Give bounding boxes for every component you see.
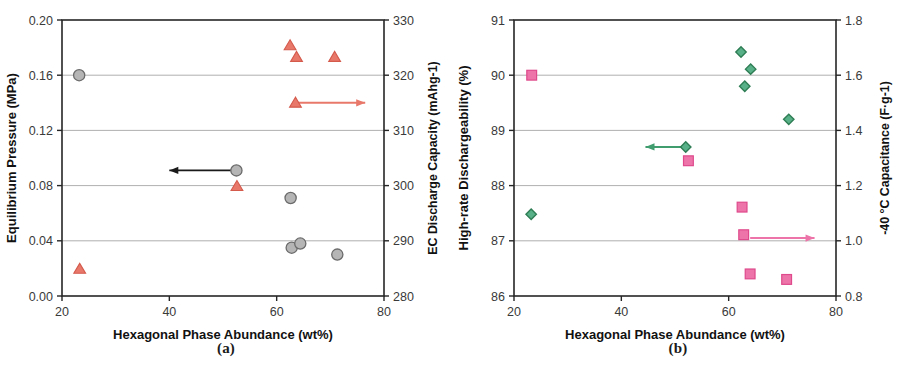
data-point-diamond <box>784 114 794 124</box>
y-left-tick-label: 0.00 <box>29 290 53 304</box>
data-point-triangle <box>284 40 296 50</box>
data-point-square <box>745 269 755 279</box>
y-right-tick-label: 320 <box>393 69 414 83</box>
arrow-head-right-icon <box>356 99 365 106</box>
y-left-axis-title: High-rate Dischargeability (%) <box>456 66 471 251</box>
data-point-diamond <box>740 81 750 91</box>
data-point-circle <box>285 192 296 203</box>
y-left-tick-label: 0.04 <box>29 234 53 248</box>
series-1-markers <box>527 70 792 284</box>
panel-a-plot: 0.000.040.080.120.160.202802903003103203… <box>0 0 452 376</box>
data-point-diamond <box>526 209 536 219</box>
y-left-tick-label: 0.20 <box>29 14 53 28</box>
y-left-tick-label: 86 <box>491 290 505 304</box>
y-right-tick-label: 1.8 <box>845 14 862 28</box>
data-point-triangle <box>74 263 86 273</box>
data-point-square <box>782 275 792 285</box>
data-point-circle <box>295 238 306 249</box>
x-tick-label: 20 <box>55 305 69 319</box>
y-right-axis: 0.81.01.21.41.61.8 <box>836 14 862 304</box>
panel-b-caption: (b) <box>452 340 904 357</box>
y-left-axis: 0.000.040.080.120.160.20 <box>29 14 62 304</box>
y-right-tick-label: 330 <box>393 14 414 28</box>
y-left-tick-label: 0.16 <box>29 69 53 83</box>
y-right-tick-label: 300 <box>393 179 414 193</box>
x-tick-label: 20 <box>507 305 521 319</box>
y-left-axis-title: Equilibrium Pressure (MPa) <box>4 73 19 243</box>
x-tick-label: 40 <box>614 305 628 319</box>
arrow-head-left-icon <box>645 143 654 150</box>
x-tick-label: 60 <box>722 305 736 319</box>
right-arrow-to-capacity-axis <box>295 99 365 106</box>
figure-two-panel-scatter: 0.000.040.080.120.160.202802903003103203… <box>0 0 905 376</box>
series-0-markers <box>526 47 794 220</box>
x-axis: 20406080 <box>55 296 391 319</box>
y-right-tick-label: 290 <box>393 234 414 248</box>
data-point-diamond <box>736 47 746 57</box>
y-right-axis: 280290300310320330 <box>384 14 414 304</box>
data-point-square <box>527 70 537 80</box>
plot-frame <box>514 20 836 296</box>
data-point-square <box>737 202 747 212</box>
gridlines <box>62 75 384 241</box>
plot-border <box>514 20 836 296</box>
y-left-tick-label: 91 <box>491 14 505 28</box>
y-left-tick-label: 89 <box>491 124 505 138</box>
y-left-tick-label: 0.12 <box>29 124 53 138</box>
panel-a-caption: (a) <box>0 340 452 357</box>
data-point-square <box>739 230 749 240</box>
gridlines <box>514 75 836 241</box>
data-point-circle <box>332 249 343 260</box>
y-right-tick-label: 1.2 <box>845 179 862 193</box>
y-right-tick-label: 310 <box>393 124 414 138</box>
x-axis: 20406080 <box>507 296 843 319</box>
panel-b: 8687888990910.81.01.21.41.61.820406080He… <box>452 0 904 376</box>
x-tick-label: 80 <box>377 305 391 319</box>
y-left-tick-label: 0.08 <box>29 179 53 193</box>
data-point-circle <box>231 165 242 176</box>
panel-a: 0.000.040.080.120.160.202802903003103203… <box>0 0 452 376</box>
arrow-head-left-icon <box>169 167 178 174</box>
x-tick-label: 80 <box>829 305 843 319</box>
y-right-axis-title: -40 °C Capacitance (F·g-1) <box>878 81 892 235</box>
y-right-axis-title: EC Discharge Capacity (mAhg-1) <box>426 61 440 254</box>
y-left-tick-label: 88 <box>491 179 505 193</box>
data-point-circle <box>74 70 85 81</box>
y-right-tick-label: 1.0 <box>845 234 862 248</box>
y-right-tick-label: 0.8 <box>845 290 862 304</box>
data-point-triangle <box>329 51 341 61</box>
data-point-square <box>684 156 694 166</box>
x-tick-label: 60 <box>270 305 284 319</box>
y-left-tick-label: 90 <box>491 69 505 83</box>
series-0-markers <box>74 70 343 261</box>
panel-b-plot: 8687888990910.81.01.21.41.61.820406080He… <box>452 0 904 376</box>
data-point-triangle <box>291 51 303 61</box>
y-left-axis: 868788899091 <box>491 14 514 304</box>
y-right-tick-label: 1.6 <box>845 69 862 83</box>
data-point-diamond <box>745 64 755 74</box>
y-left-tick-label: 87 <box>491 234 505 248</box>
left-arrow-to-pressure-axis <box>169 167 236 174</box>
x-tick-label: 40 <box>162 305 176 319</box>
y-right-tick-label: 1.4 <box>845 124 862 138</box>
y-right-tick-label: 280 <box>393 290 414 304</box>
data-point-diamond <box>681 142 691 152</box>
